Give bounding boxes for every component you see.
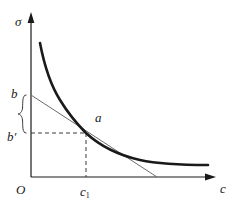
- tangent-line: [31, 95, 157, 177]
- intercept-b-prime-label: b′: [7, 130, 16, 143]
- origin-label: O: [16, 183, 25, 196]
- strength-curve: [40, 43, 208, 165]
- x-axis-arrow-icon: [205, 174, 216, 181]
- diagram-canvas: [0, 0, 234, 209]
- y-axis-arrow-icon: [28, 12, 35, 23]
- brace-b-to-bprime-icon: [18, 95, 26, 133]
- y-axis-label: σ: [15, 15, 21, 28]
- figure-container: σ c O b b′ a c1: [0, 0, 234, 209]
- intercept-b-label: b: [11, 87, 18, 100]
- x-tick-c1-label: c1: [80, 185, 90, 198]
- x-tick-c1-subscript: 1: [86, 191, 90, 200]
- x-tick-c1-base: c: [80, 184, 86, 199]
- tangent-point-label: a: [95, 111, 102, 124]
- x-axis-label: c: [220, 182, 226, 195]
